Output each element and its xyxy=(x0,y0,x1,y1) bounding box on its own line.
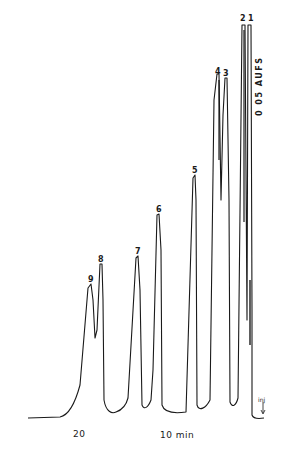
injection-label: inj xyxy=(258,396,265,403)
x-tick-20: 20 xyxy=(73,429,85,439)
peak-label-6: 6 xyxy=(156,206,162,214)
scale-annotation: 0 05 AUFS xyxy=(255,57,264,116)
chromatogram-trace xyxy=(28,25,264,418)
peak-label-5: 5 xyxy=(192,167,198,175)
x-tick-10: 10 min xyxy=(160,430,194,440)
peak-label-1: 1 xyxy=(248,15,254,23)
peak-label-4: 4 xyxy=(215,68,221,76)
peak-label-2: 2 xyxy=(240,15,246,23)
peak-label-8: 8 xyxy=(98,256,104,264)
peak-label-7: 7 xyxy=(135,248,141,256)
chromatogram-plot xyxy=(0,0,281,459)
peak-label-3: 3 xyxy=(223,70,229,78)
peak-label-9: 9 xyxy=(88,276,94,284)
